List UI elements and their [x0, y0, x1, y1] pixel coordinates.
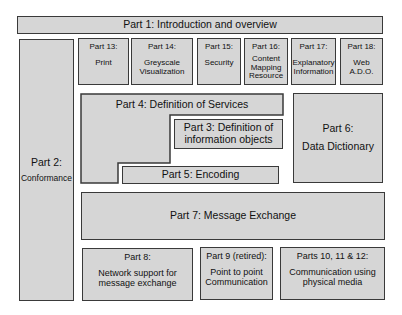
- part6-title: Part 6:: [323, 123, 354, 135]
- parts10-12-subtitle: Communication using physical media: [288, 268, 378, 288]
- parts10-12-physical-media-box: Parts 10, 11 & 12: Communication using p…: [280, 247, 385, 300]
- part9-title: Part 9 (retired):: [206, 252, 267, 262]
- part3-information-objects-box: Part 3: Definition of information object…: [174, 119, 283, 149]
- parts10-12-title: Parts 10, 11 & 12:: [297, 252, 368, 262]
- part8-subtitle: Network support for message exchange: [96, 269, 180, 289]
- part7-label: Part 7: Message Exchange: [170, 210, 296, 222]
- part4-label: Part 4: Definition of Services: [81, 98, 283, 110]
- part8-network-support-box: Part 8: Network support for message exch…: [82, 248, 193, 301]
- part3-line2: information objects: [184, 134, 272, 146]
- part7-message-exchange-box: Part 7: Message Exchange: [81, 192, 385, 240]
- part9-subtitle: Point to point Communication: [204, 268, 270, 288]
- part5-encoding-box: Part 5: Encoding: [122, 166, 279, 184]
- part9-point-to-point-box: Part 9 (retired): Point to point Communi…: [200, 247, 273, 300]
- part6-data-dictionary-box: Part 6: Data Dictionary: [293, 93, 383, 183]
- part8-title: Part 8:: [124, 253, 151, 263]
- part5-label: Part 5: Encoding: [162, 169, 240, 181]
- part6-subtitle: Data Dictionary: [302, 141, 374, 153]
